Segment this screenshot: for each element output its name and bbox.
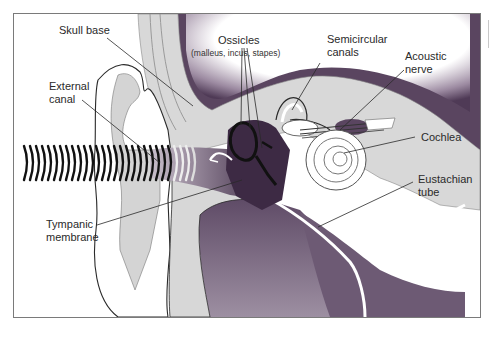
label-external-canal-line2: canal — [49, 93, 75, 106]
label-cochlea: Cochlea — [421, 131, 461, 144]
label-acoustic-nerve-line1: Acoustic — [405, 50, 447, 63]
page-edge-mark — [488, 20, 489, 48]
label-ossicles: Ossicles — [218, 34, 260, 47]
label-acoustic-nerve-line2: nerve — [405, 63, 433, 76]
label-external-canal-line1: External — [49, 80, 89, 93]
label-semicircular-canals-line1: Semicircular — [327, 33, 388, 46]
label-tympanic-membrane-line1: Tympanic — [46, 218, 93, 231]
label-eustachian-tube-line2: tube — [418, 186, 439, 199]
label-semicircular-canals-line2: canals — [327, 46, 359, 59]
label-eustachian-tube-line1: Eustachian — [418, 173, 472, 186]
label-tympanic-membrane-line2: membrane — [46, 231, 99, 244]
label-skull-base: Skull base — [59, 24, 110, 37]
label-ossicles-detail: (malleus, incus, stapes) — [191, 48, 280, 58]
